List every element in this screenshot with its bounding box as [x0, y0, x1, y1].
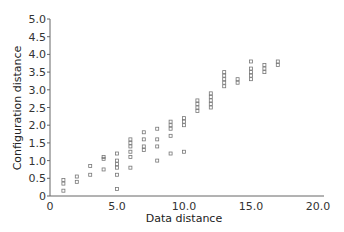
data-point — [183, 117, 186, 120]
data-point — [183, 124, 186, 127]
x-tick-label: 5.0 — [108, 200, 126, 213]
data-point — [129, 145, 132, 148]
y-tick-label: 0 — [39, 190, 46, 203]
data-point — [75, 175, 78, 178]
data-point — [102, 168, 105, 171]
y-axis-label: Configuration distance — [11, 45, 24, 170]
data-point — [209, 95, 212, 98]
y-tick-label: 0.5 — [29, 172, 47, 185]
data-point — [89, 164, 92, 167]
data-point — [89, 173, 92, 176]
data-point — [276, 64, 279, 67]
data-point — [196, 99, 199, 102]
data-point — [209, 102, 212, 105]
data-point — [196, 102, 199, 105]
data-point — [223, 71, 226, 74]
data-point — [263, 64, 266, 67]
data-point — [156, 159, 159, 162]
data-point — [129, 156, 132, 159]
data-point — [183, 120, 186, 123]
x-tick-label: 0 — [47, 200, 54, 213]
y-tick-label: 3.5 — [29, 66, 47, 79]
data-point — [223, 85, 226, 88]
data-point — [62, 189, 65, 192]
data-point — [223, 78, 226, 81]
data-point — [62, 179, 65, 182]
data-point — [129, 141, 132, 144]
data-point — [250, 74, 253, 77]
data-point — [156, 127, 159, 130]
data-point — [129, 166, 132, 169]
y-tick-label: 1.5 — [29, 137, 47, 150]
data-point — [250, 60, 253, 63]
data-point — [116, 163, 119, 166]
data-point — [209, 99, 212, 102]
y-tick-label: 4.5 — [29, 31, 47, 44]
data-point — [169, 134, 172, 137]
x-tick-label: 20.0 — [306, 200, 331, 213]
y-tick-label: 3.0 — [29, 84, 47, 97]
data-point — [196, 110, 199, 113]
data-point — [263, 67, 266, 70]
data-point — [169, 124, 172, 127]
data-point — [129, 150, 132, 153]
data-point — [156, 138, 159, 141]
data-point — [183, 150, 186, 153]
data-point — [142, 145, 145, 148]
data-point — [263, 71, 266, 74]
data-point — [196, 106, 199, 109]
data-points — [62, 60, 279, 192]
data-point — [142, 148, 145, 151]
data-point — [250, 67, 253, 70]
data-point — [116, 152, 119, 155]
data-point — [116, 166, 119, 169]
x-axis-label: Data distance — [146, 212, 223, 225]
data-point — [250, 71, 253, 74]
data-point — [276, 60, 279, 63]
data-point — [142, 131, 145, 134]
data-point — [209, 92, 212, 95]
data-point — [236, 81, 239, 84]
data-point — [223, 81, 226, 84]
data-point — [169, 127, 172, 130]
y-tick-label: 4.0 — [29, 48, 47, 61]
data-point — [156, 145, 159, 148]
data-point — [116, 173, 119, 176]
y-tick-label: 1.0 — [29, 155, 47, 168]
x-tick-label: 15.0 — [239, 200, 264, 213]
data-point — [250, 78, 253, 81]
data-point — [169, 152, 172, 155]
data-point — [223, 74, 226, 77]
data-point — [209, 106, 212, 109]
scatter-chart: 00.51.01.52.02.53.03.54.04.55.005.010.01… — [0, 0, 344, 232]
y-tick-label: 2.0 — [29, 119, 47, 132]
data-point — [142, 138, 145, 141]
data-point — [169, 120, 172, 123]
y-tick-label: 2.5 — [29, 102, 47, 115]
axes: 00.51.01.52.02.53.03.54.04.55.005.010.01… — [29, 13, 331, 213]
data-point — [116, 159, 119, 162]
y-tick-label: 5.0 — [29, 13, 47, 26]
data-point — [129, 138, 132, 141]
data-point — [236, 78, 239, 81]
data-point — [75, 180, 78, 183]
data-point — [116, 187, 119, 190]
data-point — [62, 182, 65, 185]
